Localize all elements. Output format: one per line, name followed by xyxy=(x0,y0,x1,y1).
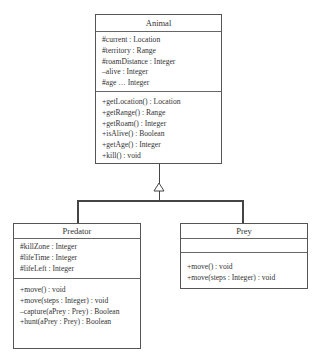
attribute: #killZone : Integer xyxy=(20,242,140,253)
operations-section: +getLocation() : Location +getRange() : … xyxy=(96,92,221,162)
class-predator: Predator #killZone : Integer #lifeTime :… xyxy=(13,223,141,349)
class-animal: Animal #current : Location #territory : … xyxy=(95,14,222,164)
attributes-section: #current : Location #territory : Range #… xyxy=(96,32,221,92)
operations-section: +move() : void +move(steps : Integer) : … xyxy=(14,279,140,328)
attributes-section: #killZone : Integer #lifeTime : Integer … xyxy=(14,239,140,279)
operation: +move() : void xyxy=(187,262,307,273)
operation: +kill() : void xyxy=(102,151,221,162)
operation: +getRange() : Range xyxy=(102,108,221,119)
class-name: Prey xyxy=(181,224,307,239)
operation: +getLocation() : Location xyxy=(102,97,221,108)
attribute: #lifeTime : Integer xyxy=(20,253,140,264)
class-name: Animal xyxy=(96,15,221,32)
operation: –capture(aPrey : Prey) : Boolean xyxy=(20,307,140,318)
attribute: –alive : Integer xyxy=(102,67,221,78)
attribute: #territory : Range xyxy=(102,46,221,57)
connector-to-prey xyxy=(242,200,244,224)
attribute: #lifeLeft : Integer xyxy=(20,264,140,275)
connector-horizontal xyxy=(77,200,243,202)
connector-vertical-main xyxy=(159,164,160,184)
operation: +getRoam() : Integer xyxy=(102,119,221,130)
operation: +hunt(aPrey : Prey) : Boolean xyxy=(20,317,140,328)
attributes-section xyxy=(181,239,307,253)
operation: +move(steps : Integer) : void xyxy=(187,273,307,284)
class-name: Predator xyxy=(14,224,140,239)
operation: +getAge() : Integer xyxy=(102,140,221,151)
attribute: #current : Location xyxy=(102,35,221,46)
attribute: #age … Integer xyxy=(102,78,221,89)
operations-section: +move() : void +move(steps : Integer) : … xyxy=(181,253,307,284)
class-prey: Prey +move() : void +move(steps : Intege… xyxy=(180,223,308,289)
attribute: #roamDistance : Integer xyxy=(102,57,221,68)
operation: +isAlive() : Boolean xyxy=(102,129,221,140)
operation: +move(steps : Integer) : void xyxy=(20,296,140,307)
connector-to-predator xyxy=(77,200,79,224)
operation: +move() : void xyxy=(20,285,140,296)
